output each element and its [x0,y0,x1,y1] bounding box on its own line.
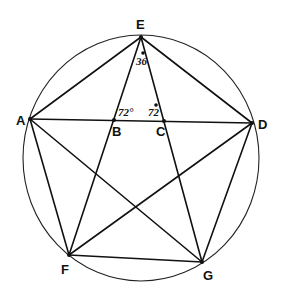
segment-GF [69,255,202,262]
segment-FA [30,119,69,255]
segment-AD [30,119,252,123]
angle-label-72-c: 72 [148,106,160,118]
vertex-dot-B [112,118,116,122]
vertex-dot-F [67,253,71,257]
label-D: D [258,117,267,132]
angle-label-72-b: 72° [118,106,134,118]
vertex-dot-D [250,121,254,125]
label-E: E [136,17,145,32]
segment-DG [202,123,252,262]
vertex-dot-G [200,260,204,264]
vertex-dot-A [28,117,32,121]
segment-EF [69,37,141,255]
label-B: B [112,124,121,139]
vertex-dot-E [139,35,143,39]
label-A: A [16,113,26,128]
circumscribed-circle [23,35,259,281]
segment-AG [30,119,202,262]
label-F: F [61,262,69,277]
label-G: G [203,268,213,283]
label-C: C [156,124,166,139]
pentagon-diagram: E A D F G B C 36 72° 72 [0,0,282,295]
vertex-dot-C [162,119,166,123]
segment-DF [69,123,252,255]
angle-label-36: 36 [135,55,148,67]
line-segments [30,37,252,262]
segment-EG [141,37,202,262]
